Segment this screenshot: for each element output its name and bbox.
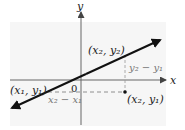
slope-diagram: y x 0 (x₂, y₂) (x₁, y₁) (x₂, y₁) y₂ − y₁… (0, 0, 185, 130)
origin-label: 0 (71, 83, 77, 94)
point-x2-y2-label: (x₂, y₂) (88, 44, 125, 57)
x-axis-label: x (170, 74, 177, 87)
point-x2-y1-label: (x₂, y₁) (127, 93, 164, 106)
y-axis-label: y (76, 0, 84, 13)
point-x1-y1-label: (x₁, y₁) (10, 84, 47, 97)
rise-label: y₂ − y₁ (128, 62, 163, 73)
run-label: x₂ − x₁ (48, 94, 82, 105)
